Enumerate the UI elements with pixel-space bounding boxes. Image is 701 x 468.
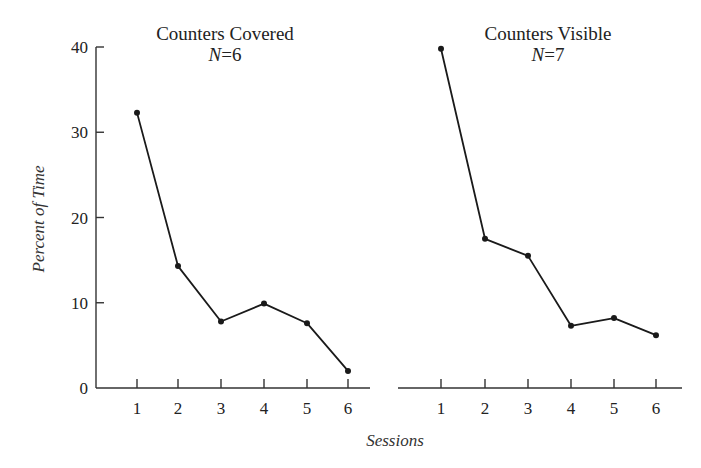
x-tick-label: 1 <box>437 399 446 418</box>
series-line <box>137 113 348 371</box>
y-tick-label: 40 <box>71 38 88 57</box>
x-tick-label: 5 <box>610 399 619 418</box>
x-tick-label: 4 <box>567 399 576 418</box>
panel-sample-size: N=7 <box>531 44 565 65</box>
data-point <box>261 301 267 307</box>
y-tick-label: 10 <box>71 294 88 313</box>
data-point <box>568 323 574 329</box>
x-tick-label: 6 <box>344 399 353 418</box>
data-point <box>653 332 659 338</box>
panel-title: Counters Visible <box>485 23 612 44</box>
data-point <box>218 319 224 325</box>
x-tick-label: 6 <box>652 399 661 418</box>
data-point <box>438 46 444 52</box>
y-tick-label: 20 <box>71 209 88 228</box>
y-axis: 010203040 <box>71 38 104 398</box>
data-point <box>525 253 531 259</box>
panel-sample-size: N=6 <box>208 44 242 65</box>
y-tick-label: 0 <box>80 379 89 398</box>
panel-counters-covered: Counters CoveredN=6123456 <box>96 23 370 418</box>
data-point <box>304 320 310 326</box>
data-point <box>611 315 617 321</box>
x-tick-label: 1 <box>133 399 142 418</box>
chart-panels: Counters CoveredN=6123456Counters Visibl… <box>96 23 682 418</box>
data-point <box>175 263 181 269</box>
panel-counters-visible: Counters VisibleN=7123456 <box>398 23 682 418</box>
x-tick-label: 3 <box>524 399 533 418</box>
x-tick-label: 2 <box>174 399 183 418</box>
x-tick-label: 2 <box>481 399 490 418</box>
series-line <box>441 49 656 335</box>
line-chart: 010203040 Counters CoveredN=6123456Count… <box>0 0 701 468</box>
data-point <box>345 368 351 374</box>
x-tick-label: 4 <box>260 399 269 418</box>
x-tick-label: 5 <box>303 399 312 418</box>
y-axis-label: Percent of Time <box>29 165 48 273</box>
y-tick-label: 30 <box>71 123 88 142</box>
data-point <box>482 236 488 242</box>
panel-title: Counters Covered <box>156 23 294 44</box>
data-point <box>134 110 140 116</box>
x-axis-label: Sessions <box>366 431 424 450</box>
x-tick-label: 3 <box>217 399 226 418</box>
